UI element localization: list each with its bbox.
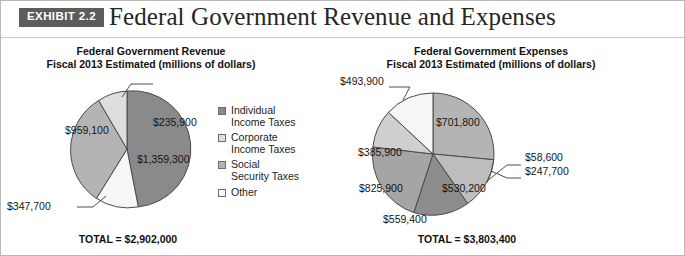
expenses-label-international-affairs: $58,600 <box>525 152 563 163</box>
exhibit-figure: EXHIBIT 2.2 Federal Government Revenue a… <box>0 0 685 256</box>
revenue-pie-svg <box>49 55 219 225</box>
expenses-title-line2: Fiscal 2013 Estimated (millions of dolla… <box>331 58 651 71</box>
revenue-total: TOTAL = $2,902,000 <box>53 233 203 245</box>
expenses-chart-panel: Federal Government Expenses Fiscal 2013 … <box>331 37 684 256</box>
legend-label-individual-income-taxes: Individual Income Taxes <box>231 105 296 128</box>
expenses-chart-title: Federal Government Expenses Fiscal 2013 … <box>331 45 651 70</box>
legend-swatch-corporate-income-taxes <box>218 134 226 142</box>
legend-item-corporate-income-taxes[interactable]: Corporate Income Taxes <box>218 132 299 155</box>
revenue-slice-individual <box>127 91 191 207</box>
exhibit-badge: EXHIBIT 2.2 <box>19 8 104 27</box>
expenses-label-income-security: $559,400 <box>383 214 427 225</box>
expenses-title-line1: Federal Government Expenses <box>331 45 651 58</box>
revenue-pie-chart <box>49 55 219 225</box>
revenue-label-social-security: $959,100 <box>65 125 109 136</box>
expenses-label-health: $385,900 <box>358 147 402 158</box>
page-title: Federal Government Revenue and Expenses <box>109 3 556 31</box>
expenses-label-social-security: $825,900 <box>359 183 403 194</box>
revenue-chart-panel: Federal Government Revenue Fiscal 2013 E… <box>1 37 343 256</box>
expenses-pie-svg <box>331 73 546 253</box>
legend-swatch-other <box>218 189 226 197</box>
legend-item-other[interactable]: Other <box>218 187 299 199</box>
legend-swatch-social-security-taxes <box>218 161 226 169</box>
legend-label-other: Other <box>231 187 257 199</box>
expenses-total: TOTAL = $3,803,400 <box>372 233 562 245</box>
revenue-legend: Individual Income Taxes Corporate Income… <box>218 105 299 202</box>
expenses-pie-chart <box>331 73 546 253</box>
revenue-label-corporate: $235,900 <box>153 117 197 128</box>
legend-item-individual-income-taxes[interactable]: Individual Income Taxes <box>218 105 299 128</box>
revenue-label-individual: $1,359,300 <box>137 154 190 165</box>
expenses-label-national-defense: $701,800 <box>436 117 480 128</box>
legend-item-social-security-taxes[interactable]: Social Security Taxes <box>218 159 299 182</box>
revenue-label-other: $347,700 <box>7 201 51 212</box>
exhibit-header: EXHIBIT 2.2 Federal Government Revenue a… <box>1 1 684 38</box>
legend-swatch-individual-income-taxes <box>218 107 226 115</box>
expenses-label-other: $493,900 <box>340 76 384 87</box>
expenses-label-medicare: $530,200 <box>442 183 486 194</box>
legend-label-corporate-income-taxes: Corporate Income Taxes <box>231 132 296 155</box>
legend-label-social-security-taxes: Social Security Taxes <box>231 159 299 182</box>
expenses-label-net-interest: $247,700 <box>525 166 569 177</box>
